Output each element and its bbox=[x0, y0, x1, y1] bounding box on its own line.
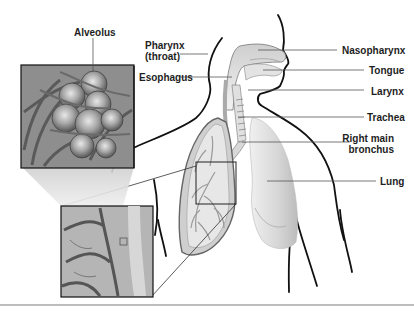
label-alveolus: Alveolus bbox=[74, 27, 116, 38]
label-pharynx: Pharynx (throat) bbox=[145, 40, 184, 62]
alveolus-inset bbox=[21, 65, 134, 168]
label-bronchus-line1: Right main bbox=[340, 133, 394, 144]
zoom-cone-upper bbox=[22, 167, 134, 206]
label-lung: Lung bbox=[380, 176, 404, 187]
lung-tissue-inset bbox=[61, 206, 153, 297]
label-pharynx-line2: (throat) bbox=[145, 51, 184, 62]
label-nasopharynx: Nasopharynx bbox=[342, 45, 405, 56]
label-pharynx-line1: Pharynx bbox=[145, 40, 184, 51]
label-trachea: Trachea bbox=[367, 112, 405, 123]
label-larynx: Larynx bbox=[371, 86, 404, 97]
label-tongue: Tongue bbox=[369, 65, 404, 76]
lung-right bbox=[250, 118, 298, 249]
label-right-main-bronchus: Right main bronchus bbox=[340, 133, 394, 155]
label-bronchus-line2: bronchus bbox=[340, 144, 394, 155]
bottom-divider bbox=[0, 304, 414, 306]
label-esophagus: Esophagus bbox=[139, 72, 193, 83]
